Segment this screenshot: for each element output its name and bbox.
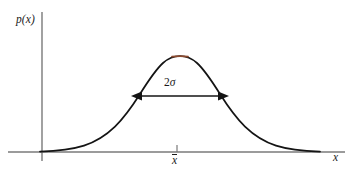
sigma-symbol: σ: [170, 76, 176, 88]
overbar-stroke: [172, 154, 177, 155]
gaussian-plot-canvas: [0, 0, 358, 177]
x-axis-label: x: [333, 151, 338, 163]
two-sigma-arrow: [131, 92, 229, 101]
x-bar-glyph: x: [172, 153, 177, 166]
y-axis-label: p(x): [16, 13, 35, 25]
gaussian-curve: [40, 56, 320, 152]
gaussian-distribution-figure: p(x) x x 2σ: [0, 0, 358, 177]
mean-tick-label: x: [172, 153, 177, 166]
two-sigma-label: 2σ: [164, 76, 175, 88]
mean-tick-letter: x: [172, 154, 177, 166]
